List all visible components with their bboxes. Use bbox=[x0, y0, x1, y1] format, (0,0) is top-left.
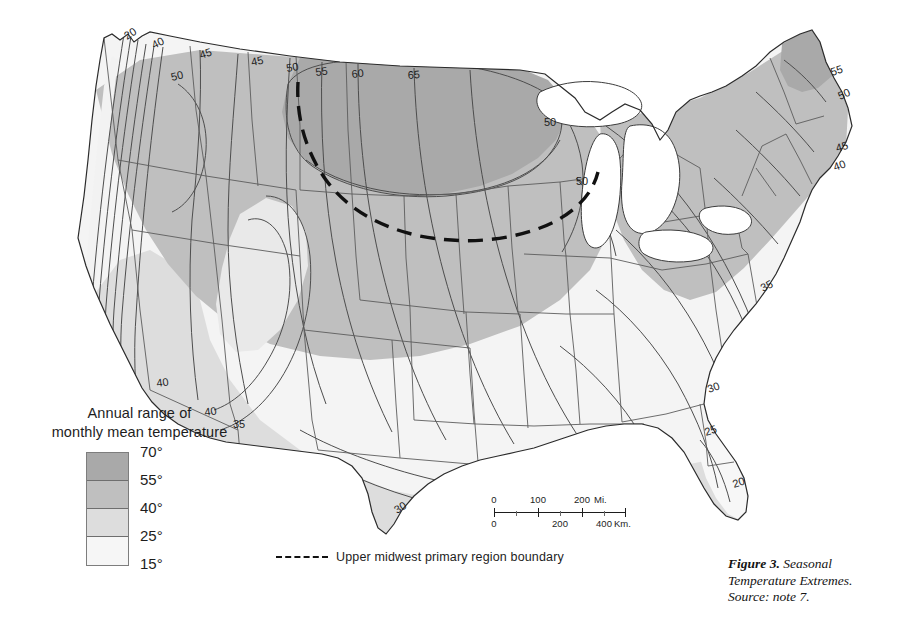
legend-swatch-55 bbox=[87, 481, 128, 509]
dashed-line-swatch bbox=[276, 556, 328, 558]
svg-text:45: 45 bbox=[250, 54, 264, 68]
legend-label-25: 25° bbox=[140, 527, 163, 555]
svg-text:55: 55 bbox=[315, 64, 329, 78]
scale-tick-minor-1 bbox=[516, 511, 517, 516]
scale-tick-minor-2 bbox=[560, 511, 561, 516]
scale-km-unit: Km. bbox=[614, 518, 631, 529]
map-legend: Annual range of monthly mean temperature… bbox=[37, 404, 267, 566]
scale-bar-rule bbox=[494, 508, 626, 517]
scale-mi-unit: Mi. bbox=[594, 494, 607, 505]
scale-bar: 0 100 200 Mi. 0 200 400 Km. bbox=[494, 494, 644, 531]
svg-text:65: 65 bbox=[407, 68, 420, 81]
legend-label-55: 55° bbox=[140, 471, 163, 499]
legend-swatch-column bbox=[86, 452, 129, 566]
boundary-legend-label: Upper midwest primary region boundary bbox=[336, 550, 564, 564]
scale-km-200: 200 bbox=[552, 518, 568, 529]
figure-caption: Figure 3. Seasonal Temperature Extremes.… bbox=[728, 556, 893, 606]
scale-tick-1 bbox=[538, 508, 539, 517]
scale-tick-minor-3 bbox=[604, 511, 605, 516]
scale-mi-100: 100 bbox=[530, 494, 546, 505]
scale-tick-2 bbox=[582, 508, 583, 517]
scale-tick-end bbox=[625, 508, 626, 517]
legend-label-40: 40° bbox=[140, 499, 163, 527]
scale-tick-start bbox=[494, 508, 495, 517]
figure-caption-number: Figure 3. bbox=[728, 556, 780, 571]
scale-mi-0: 0 bbox=[491, 494, 496, 505]
scale-bar-km-labels: 0 200 400 Km. bbox=[494, 518, 644, 531]
svg-text:45: 45 bbox=[834, 139, 849, 154]
legend-title: Annual range of monthly mean temperature bbox=[37, 404, 242, 442]
legend-swatch-25 bbox=[87, 537, 128, 565]
legend-swatch-70 bbox=[87, 453, 128, 481]
boundary-legend: Upper midwest primary region boundary bbox=[276, 550, 564, 564]
svg-text:50: 50 bbox=[544, 116, 556, 128]
figure-root: 20 40 45 45 50 55 60 65 50 50 50 55 50 4… bbox=[0, 0, 901, 618]
svg-text:50: 50 bbox=[285, 60, 299, 74]
legend-tick-labels: 70° 55° 40° 25° 15° bbox=[140, 443, 163, 583]
scale-mi-200: 200 bbox=[574, 494, 590, 505]
svg-text:60: 60 bbox=[351, 67, 364, 80]
legend-ramp: 70° 55° 40° 25° 15° bbox=[86, 452, 236, 566]
svg-text:40: 40 bbox=[832, 157, 848, 172]
scale-km-400: 400 bbox=[596, 518, 612, 529]
svg-text:30: 30 bbox=[706, 379, 722, 394]
legend-title-line-1: Annual range of bbox=[37, 404, 242, 423]
legend-label-70: 70° bbox=[140, 443, 163, 471]
scale-bar-miles-labels: 0 100 200 Mi. bbox=[494, 494, 644, 507]
legend-swatch-40 bbox=[87, 509, 128, 537]
legend-title-line-2: monthly mean temperature bbox=[37, 423, 242, 442]
svg-text:40: 40 bbox=[156, 375, 170, 389]
scale-km-0: 0 bbox=[491, 518, 496, 529]
legend-label-15: 15° bbox=[140, 555, 163, 583]
svg-text:50: 50 bbox=[576, 175, 588, 187]
svg-text:55: 55 bbox=[829, 63, 844, 78]
